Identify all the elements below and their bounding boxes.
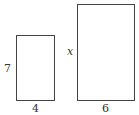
small-rectangle-height-label: 7 bbox=[4, 63, 11, 74]
small-rectangle bbox=[16, 35, 55, 101]
large-rectangle-width-label: 6 bbox=[102, 103, 109, 114]
large-rectangle-height-label: x bbox=[67, 46, 73, 57]
large-rectangle bbox=[77, 4, 135, 101]
small-rectangle-width-label: 4 bbox=[32, 103, 39, 114]
